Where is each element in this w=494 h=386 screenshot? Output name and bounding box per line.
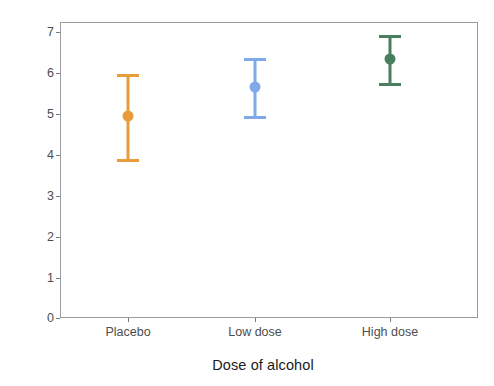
y-tick-label-2: 2 — [28, 230, 54, 244]
error-cap-lower-high-dose — [379, 83, 401, 86]
y-tick-label-7: 7 — [28, 25, 54, 39]
x-axis-title: Dose of alcohol — [48, 357, 478, 373]
y-tick-mark-5 — [56, 114, 60, 115]
y-tick-mark-2 — [56, 237, 60, 238]
data-point-high-dose[interactable] — [385, 53, 396, 64]
y-tick-label-0: 0 — [28, 311, 54, 325]
y-tick-mark-6 — [56, 73, 60, 74]
x-tick-mark-placebo — [128, 318, 129, 322]
y-tick-label-4: 4 — [28, 148, 54, 162]
x-tick-mark-low-dose — [255, 318, 256, 322]
error-cap-lower-placebo — [117, 159, 139, 162]
x-tick-label-high-dose: High dose — [330, 325, 450, 339]
plot-panel — [60, 22, 478, 318]
y-tick-label-5: 5 — [28, 107, 54, 121]
y-tick-mark-3 — [56, 196, 60, 197]
x-tick-mark-high-dose — [390, 318, 391, 322]
chart-container: Mean attractiveness rating 7 6 5 4 3 2 1… — [0, 0, 494, 386]
y-tick-mark-7 — [56, 32, 60, 33]
error-cap-lower-low-dose — [244, 116, 266, 119]
y-tick-mark-4 — [56, 155, 60, 156]
y-tick-label-3: 3 — [28, 189, 54, 203]
y-tick-mark-1 — [56, 278, 60, 279]
x-tick-label-placebo: Placebo — [68, 325, 188, 339]
y-tick-mark-0 — [56, 318, 60, 319]
y-tick-label-6: 6 — [28, 66, 54, 80]
data-point-low-dose[interactable] — [250, 82, 261, 93]
y-tick-label-1: 1 — [28, 271, 54, 285]
x-tick-label-low-dose: Low dose — [195, 325, 315, 339]
data-point-placebo[interactable] — [123, 110, 134, 121]
